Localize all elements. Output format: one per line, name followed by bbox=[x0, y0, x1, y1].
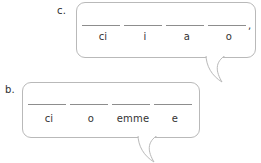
blank-line[interactable] bbox=[154, 104, 192, 105]
speech-bubble-b bbox=[22, 82, 200, 138]
hint-letter: o bbox=[70, 113, 112, 125]
blank-line[interactable] bbox=[124, 25, 162, 26]
hint-letter: ci bbox=[82, 31, 124, 43]
hints-row-c: ci i a o bbox=[82, 31, 250, 43]
blank-line[interactable] bbox=[112, 104, 150, 105]
hint-letter: ci bbox=[28, 113, 70, 125]
hint-letter: o bbox=[208, 31, 250, 43]
speech-bubble-tail-b bbox=[136, 134, 170, 163]
blank-line[interactable] bbox=[70, 104, 108, 105]
blank-line[interactable] bbox=[28, 104, 66, 105]
hint-letter: a bbox=[166, 31, 208, 43]
blank-line[interactable] bbox=[208, 25, 246, 26]
hint-letter: emme bbox=[112, 113, 154, 125]
blanks-row-c: , bbox=[82, 20, 251, 26]
hint-letter: i bbox=[124, 31, 166, 43]
trailing-comma: , bbox=[248, 23, 251, 29]
blanks-row-b bbox=[28, 104, 194, 105]
speech-bubble-tail-c bbox=[204, 54, 238, 84]
blank-line[interactable] bbox=[166, 25, 204, 26]
speech-bubble-c bbox=[76, 2, 256, 58]
hint-letter: e bbox=[154, 113, 196, 125]
exercise-label-b: b. bbox=[5, 85, 15, 95]
blank-line[interactable] bbox=[82, 25, 120, 26]
exercise-label-c: c. bbox=[57, 6, 66, 16]
hints-row-b: ci o emme e bbox=[28, 113, 196, 125]
